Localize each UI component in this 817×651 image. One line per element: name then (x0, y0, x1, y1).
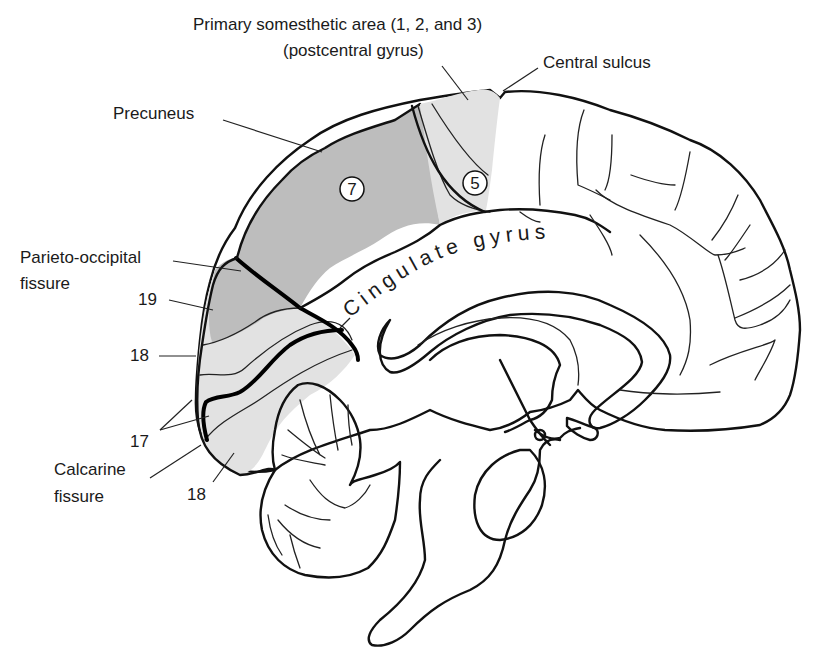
area-7-marker: 7 (340, 177, 364, 201)
leader-precuneus (223, 120, 322, 152)
leader-central-sulcus (503, 68, 538, 91)
optic-chiasm (567, 418, 598, 440)
label-parieto-occipital-line1: Parieto-occipital (20, 248, 141, 267)
area-5-number: 5 (470, 174, 479, 193)
label-area-18-upper: 18 (130, 346, 149, 365)
label-calcarine-line1: Calcarine (54, 460, 126, 479)
brain-illustration: 7 5 Cingulate gyrus Primary somesthetic … (0, 0, 817, 651)
label-area-18-lower: 18 (187, 485, 206, 504)
label-calcarine-line2: fissure (54, 487, 104, 506)
label-primary-somesthetic-line1: Primary somesthetic area (1, 2, and 3) (193, 15, 482, 34)
cerebellar-folia-3 (268, 515, 300, 568)
brainstem-outline (369, 439, 560, 645)
label-parieto-occipital-line2: fissure (20, 274, 70, 293)
label-precuneus: Precuneus (113, 104, 194, 123)
area-7-number: 7 (347, 180, 356, 199)
label-central-sulcus: Central sulcus (543, 53, 651, 72)
label-area-17: 17 (130, 432, 149, 451)
label-primary-somesthetic-line2: (postcentral gyrus) (283, 41, 424, 60)
cerebellar-folia-2 (278, 480, 370, 548)
leader-calcarine (150, 445, 201, 478)
area-5-marker: 5 (463, 171, 487, 195)
brain-diagram: 7 5 Cingulate gyrus Primary somesthetic … (0, 0, 817, 651)
label-area-19: 19 (138, 290, 157, 309)
